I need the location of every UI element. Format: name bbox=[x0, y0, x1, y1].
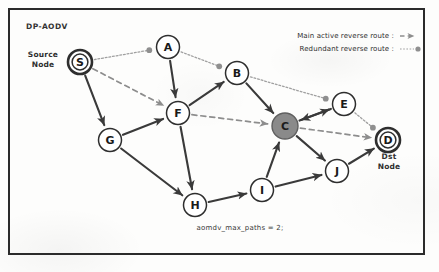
node-h[interactable]: H bbox=[184, 194, 207, 217]
dst-node-label: Dst Node bbox=[370, 152, 408, 171]
source-node-label: Source Node bbox=[24, 50, 62, 69]
node-label-d: D bbox=[383, 134, 392, 147]
legend-label-redundant-reverse-route: Redundant reverse route : bbox=[300, 45, 394, 53]
page-title: DP-AODV bbox=[26, 22, 68, 31]
node-label-b: B bbox=[233, 67, 241, 80]
legend-label-main-active-reverse-route: Main active reverse route : bbox=[297, 32, 394, 40]
edge-f-b bbox=[190, 82, 224, 105]
source-node-label-line1: Source bbox=[24, 50, 62, 60]
edge-f-c bbox=[192, 115, 268, 124]
diagram-page: SABFGCEDJIH DP-AODV Source Node Dst Node… bbox=[0, 0, 439, 272]
legend-item-redundant-reverse-route: Redundant reverse route : bbox=[258, 42, 424, 55]
redundant-route-dot-a bbox=[146, 47, 152, 53]
node-s[interactable]: S bbox=[68, 50, 92, 74]
edge-c-j bbox=[297, 136, 325, 160]
node-a[interactable]: A bbox=[157, 36, 180, 59]
edge-i-j bbox=[276, 175, 322, 187]
node-d[interactable]: D bbox=[376, 128, 400, 152]
edge-b-e bbox=[250, 77, 325, 99]
edge-g-f bbox=[123, 119, 163, 135]
legend: Main active reverse route : Redundant re… bbox=[258, 29, 424, 55]
dst-node-label-line1: Dst bbox=[370, 152, 408, 162]
node-j[interactable]: J bbox=[326, 160, 349, 183]
edge-a-f bbox=[170, 61, 176, 97]
node-g[interactable]: G bbox=[99, 129, 122, 152]
edge-s-a bbox=[94, 50, 149, 59]
edge-f-h bbox=[181, 127, 193, 189]
node-label-s: S bbox=[76, 56, 84, 69]
node-c[interactable]: C bbox=[272, 113, 298, 139]
edge-a-b bbox=[181, 52, 219, 66]
edge-i-c bbox=[267, 142, 279, 176]
node-b[interactable]: B bbox=[226, 62, 249, 85]
redundant-route-dot-d bbox=[370, 125, 376, 131]
node-f[interactable]: F bbox=[167, 102, 190, 125]
dst-node-label-line2: Node bbox=[370, 162, 408, 172]
node-i[interactable]: I bbox=[251, 179, 274, 202]
node-label-e: E bbox=[340, 98, 348, 111]
node-label-a: A bbox=[164, 41, 173, 54]
dotted-line-dot-icon bbox=[398, 44, 424, 54]
node-label-h: H bbox=[190, 199, 199, 212]
source-node-label-line2: Node bbox=[24, 60, 62, 70]
node-e[interactable]: E bbox=[333, 93, 356, 116]
redundant-route-dot-b bbox=[216, 63, 222, 69]
node-label-f: F bbox=[174, 107, 182, 120]
node-layer: SABFGCEDJIH bbox=[68, 36, 400, 217]
edge-c-d bbox=[300, 128, 371, 138]
node-label-g: G bbox=[105, 134, 114, 147]
diagram-caption: aomdv_max_paths = 2; bbox=[160, 224, 320, 232]
redundant-route-dot-e bbox=[323, 96, 329, 102]
node-label-c: C bbox=[281, 120, 289, 133]
node-label-i: I bbox=[260, 184, 264, 197]
legend-item-main-active-reverse-route: Main active reverse route : bbox=[258, 29, 424, 42]
edge-e-d bbox=[355, 113, 373, 128]
node-label-j: J bbox=[334, 165, 339, 178]
edge-h-i bbox=[209, 193, 247, 201]
edge-e-c bbox=[301, 109, 330, 120]
edge-b-c bbox=[246, 83, 273, 113]
edge-s-f bbox=[93, 69, 164, 106]
edge-s-g bbox=[85, 76, 104, 126]
edge-g-h bbox=[121, 149, 182, 196]
dashed-arrow-icon bbox=[398, 31, 424, 41]
